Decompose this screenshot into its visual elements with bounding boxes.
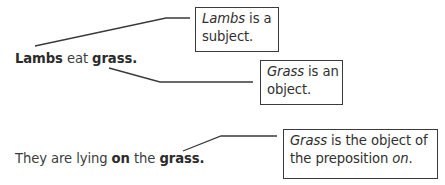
callout-line: Lambs is a — [202, 10, 272, 28]
callout-text: is the object of — [327, 133, 428, 148]
callout-line: subject. — [202, 28, 272, 46]
sentence-lying-on-grass: They are lying on the grass. — [15, 151, 204, 166]
connector-grass-to-object-callout — [109, 68, 253, 82]
word-the: the — [130, 151, 160, 166]
term-grass: Grass — [267, 64, 304, 79]
phrase-they-are-lying: They are lying — [15, 151, 112, 166]
callout-object: Grass is an object. — [260, 60, 343, 105]
callout-text: is an — [304, 64, 339, 79]
connector-grass-to-preposition-callout — [183, 136, 277, 151]
word-grass: grass. — [92, 51, 137, 66]
term-grass: Grass — [290, 133, 327, 148]
word-on: on — [112, 151, 130, 166]
connector-lambs-to-subject-callout — [35, 18, 190, 46]
callout-line: the preposition on. — [290, 150, 431, 168]
callout-text: the preposition — [290, 151, 392, 166]
callout-line: Grass is the object of — [290, 132, 431, 150]
callout-text: object. — [267, 82, 311, 97]
callout-text: . — [409, 151, 413, 166]
term-on: on — [392, 151, 408, 166]
callout-subject: Lambs is a subject. — [195, 7, 279, 52]
callout-object-of-preposition: Grass is the object of the preposition o… — [283, 129, 438, 179]
term-lambs: Lambs — [202, 11, 245, 26]
callout-line: object. — [267, 81, 336, 99]
sentence-lambs-eat-grass: Lambs eat grass. — [15, 51, 137, 66]
callout-line: Grass is an — [267, 63, 336, 81]
word-eat: eat — [63, 51, 92, 66]
callout-text: subject. — [202, 29, 253, 44]
word-grass: grass. — [159, 151, 204, 166]
callout-text: is a — [245, 11, 272, 26]
word-lambs: Lambs — [15, 51, 63, 66]
